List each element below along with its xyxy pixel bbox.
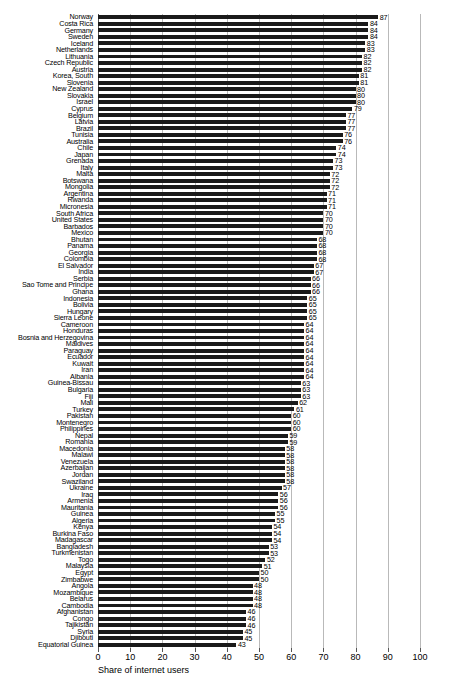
bar [98,270,314,274]
bar-row: 65 [98,303,420,307]
bar [98,113,346,117]
bar [98,381,301,385]
bar [98,512,275,516]
bar [98,139,343,143]
bar [98,146,336,150]
bar-row: 71 [98,205,420,209]
bar [98,264,314,268]
x-tick-label-30: 30 [190,652,200,662]
bar [98,355,304,359]
bar [98,421,291,425]
bar [98,388,301,392]
bar-row: 82 [98,68,420,72]
bar-row: 56 [98,506,420,510]
x-axis: 0102030405060708090100 [98,648,420,662]
bar [98,545,269,549]
bar-row: 53 [98,545,420,549]
bar [98,107,352,111]
bar [98,342,304,346]
plot-area: 8784848483838282828181808080797777777676… [98,14,420,648]
bar-row: 54 [98,525,420,529]
x-tick-label-100: 100 [412,652,427,662]
bar-row: 70 [98,231,420,235]
bar [98,198,327,202]
bar-row: 66 [98,277,420,281]
bar-row: 72 [98,185,420,189]
bar-row: 74 [98,146,420,150]
bar [98,257,317,261]
category-axis-labels: NorwayCosta RicaGermanySwedenIcelandNeth… [0,14,96,648]
bar-row: 81 [98,81,420,85]
bar [98,604,253,608]
bar [98,283,311,287]
bar [98,564,262,568]
bar [98,251,317,255]
bar-row: 45 [98,630,420,634]
bar [98,499,278,503]
bar [98,558,265,562]
bar-row: 74 [98,153,420,157]
bar [98,290,311,294]
bar [98,35,368,39]
bar-row: 71 [98,192,420,196]
bar-row: 55 [98,512,420,516]
bar-row: 76 [98,139,420,143]
bar [98,506,278,510]
bar [98,329,304,333]
bar-row: 83 [98,48,420,52]
bar [98,166,333,170]
bar [98,336,304,340]
bar [98,185,330,189]
bar-row: 66 [98,283,420,287]
bar [98,584,253,588]
bar-row: 77 [98,113,420,117]
bar-row: 45 [98,636,420,640]
bar-row: 63 [98,394,420,398]
bar-row: 54 [98,532,420,536]
bar [98,126,346,130]
x-tick-label-50: 50 [254,652,264,662]
bar [98,460,285,464]
bar [98,368,304,372]
bar-row: 58 [98,460,420,464]
bar-row: 80 [98,100,420,104]
bar-row: 66 [98,290,420,294]
bar [98,179,330,183]
bar [98,303,307,307]
bar [98,68,362,72]
bar-row: 64 [98,375,420,379]
bar-row: 64 [98,362,420,366]
bar-row: 46 [98,617,420,621]
bar-row: 68 [98,251,420,255]
bar [98,519,275,523]
bar [98,94,356,98]
bar-row: 82 [98,61,420,65]
bar-row: 57 [98,486,420,490]
bar-row: 80 [98,94,420,98]
bar-rows: 8784848483838282828181808080797777777676… [98,14,420,648]
bar [98,192,327,196]
bar [98,316,307,320]
bar [98,349,304,353]
bar [98,48,365,52]
bar-row: 50 [98,571,420,575]
bar-row: 64 [98,336,420,340]
bar-row: 76 [98,133,420,137]
bar [98,120,346,124]
bar-row: 70 [98,218,420,222]
bar [98,100,356,104]
bar [98,172,330,176]
bar-row: 58 [98,466,420,470]
bar-row: 82 [98,55,420,59]
bar [98,610,246,614]
bar-row: 68 [98,244,420,248]
bar-row: 72 [98,179,420,183]
bar [98,231,323,235]
bar [98,244,317,248]
bar [98,15,378,19]
bar [98,571,259,575]
bar-row: 73 [98,166,420,170]
bar-row: 51 [98,564,420,568]
bar [98,238,317,242]
x-tick-label-80: 80 [351,652,361,662]
